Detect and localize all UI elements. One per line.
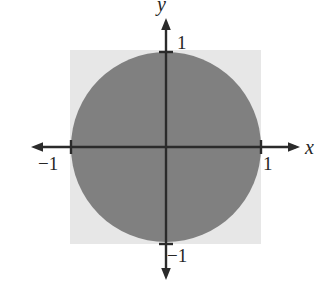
- y-tick-label-neg1: −1: [167, 246, 187, 265]
- figure-canvas: −1 1 1 −1 y x: [0, 0, 329, 284]
- x-tick-label-neg1: −1: [38, 154, 58, 173]
- y-axis-arrow-up-icon: [161, 18, 171, 30]
- y-axis-label: y: [157, 0, 166, 14]
- x-axis-arrow-left-icon: [31, 142, 43, 152]
- x-axis-arrow-right-icon: [288, 142, 300, 152]
- diagram-svg: [0, 0, 329, 284]
- y-tick-label-pos1: 1: [177, 33, 187, 52]
- x-tick-label-pos1: 1: [263, 154, 273, 173]
- y-axis-arrow-down-icon: [161, 268, 171, 280]
- x-axis-label: x: [305, 137, 314, 157]
